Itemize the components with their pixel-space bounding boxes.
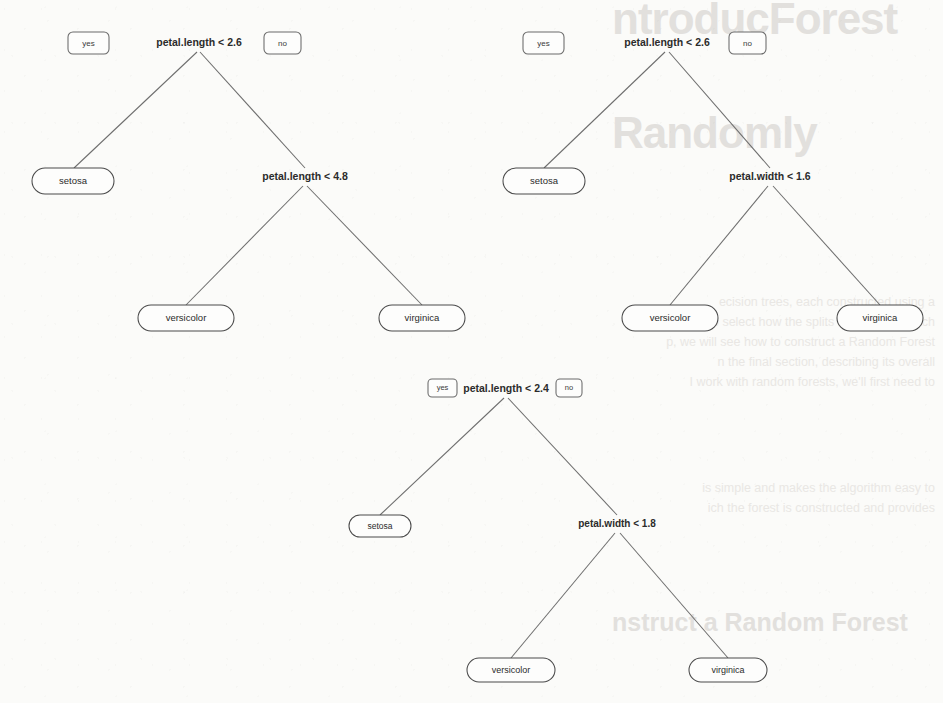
decision-tree-ensemble: petal.length < 2.6 yes no setosa petal.l… — [0, 0, 943, 703]
tree-3-leaf-virginica[interactable]: virginica — [689, 658, 767, 682]
tree-2-root-split-label: petal.length < 2.6 — [624, 36, 710, 48]
tree-2-edge-root-left — [544, 52, 665, 168]
tree-3-leaf-virginica-label: virginica — [711, 665, 744, 675]
tree-3-leaf-setosa-label: setosa — [367, 521, 392, 531]
tree-1-no-badge[interactable]: no — [264, 32, 301, 54]
tree-1-split2-label: petal.length < 4.8 — [262, 170, 348, 182]
tree-2-leaf-setosa[interactable]: setosa — [503, 168, 585, 194]
tree-2-no-badge[interactable]: no — [729, 32, 766, 54]
tree-2-yes-badge-label: yes — [537, 39, 549, 48]
tree-3-no-badge[interactable]: no — [556, 379, 582, 397]
tree-1-edge-split2-right — [307, 186, 422, 305]
tree-2-edge-split2-right — [773, 186, 880, 305]
tree-3-edge-split2-left — [511, 533, 615, 658]
tree-1-no-badge-label: no — [278, 39, 287, 48]
decision-tree-3: petal.length < 2.4 yes no setosa petal.w… — [300, 370, 820, 703]
tree-2-leaf-setosa-label: setosa — [530, 175, 559, 186]
tree-2-yes-badge[interactable]: yes — [523, 32, 564, 54]
tree-2-edge-split2-left — [670, 186, 768, 305]
decision-tree-2: petal.length < 2.6 yes no setosa petal.w… — [470, 0, 943, 350]
tree-3-yes-badge-label: yes — [437, 383, 449, 392]
tree-3-leaf-versicolor[interactable]: versicolor — [467, 658, 555, 682]
tree-1-edge-root-left — [74, 52, 197, 168]
tree-1-yes-badge[interactable]: yes — [68, 32, 109, 54]
tree-2-leaf-versicolor-label: versicolor — [650, 312, 691, 323]
tree-2-edge-root-right — [669, 52, 770, 168]
tree-3-split2-label: petal.width < 1.8 — [578, 518, 656, 529]
tree-3-root-split-label: petal.length < 2.4 — [463, 382, 549, 394]
tree-1-edge-root-right — [200, 52, 305, 168]
tree-2-leaf-virginica[interactable]: virginica — [837, 305, 923, 331]
tree-2-leaf-versicolor[interactable]: versicolor — [622, 305, 718, 331]
tree-3-leaf-versicolor-label: versicolor — [492, 665, 531, 675]
tree-2-leaf-virginica-label: virginica — [863, 312, 899, 323]
tree-1-leaf-virginica[interactable]: virginica — [379, 305, 465, 331]
tree-3-edge-root-right — [508, 398, 617, 515]
tree-3-edge-split2-right — [620, 533, 728, 658]
decision-tree-1: petal.length < 2.6 yes no setosa petal.l… — [0, 0, 500, 350]
tree-3-yes-badge[interactable]: yes — [428, 379, 457, 397]
tree-1-edge-split2-left — [186, 186, 303, 305]
tree-3-leaf-setosa[interactable]: setosa — [349, 515, 411, 537]
tree-3-no-badge-label: no — [565, 383, 573, 392]
tree-1-leaf-virginica-label: virginica — [405, 312, 441, 323]
tree-1-leaf-setosa[interactable]: setosa — [32, 168, 114, 194]
tree-1-leaf-versicolor-label: versicolor — [166, 312, 207, 323]
tree-2-split2-label: petal.width < 1.6 — [729, 170, 811, 182]
tree-1-root-split-label: petal.length < 2.6 — [156, 36, 242, 48]
tree-3-edge-root-left — [380, 398, 504, 515]
tree-1-leaf-setosa-label: setosa — [59, 175, 88, 186]
tree-1-yes-badge-label: yes — [82, 39, 94, 48]
tree-1-leaf-versicolor[interactable]: versicolor — [138, 305, 234, 331]
tree-2-no-badge-label: no — [743, 39, 752, 48]
